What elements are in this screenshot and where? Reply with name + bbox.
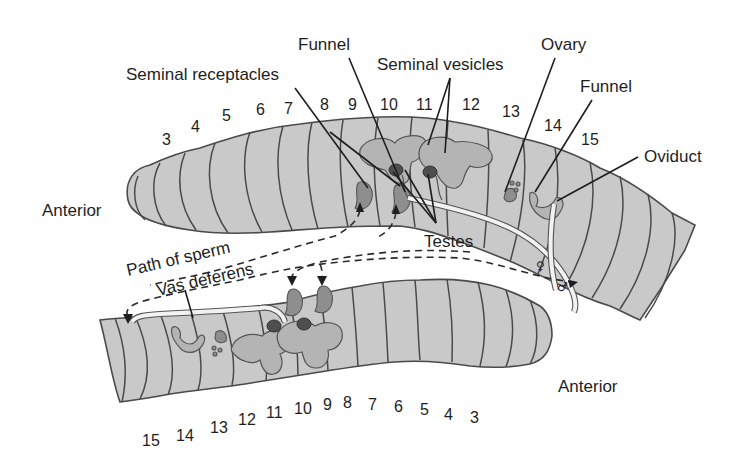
label-funnel-male: Funnel bbox=[298, 35, 350, 54]
segment-number: 6 bbox=[394, 398, 403, 415]
testis-shape bbox=[423, 166, 437, 178]
segment-number: 11 bbox=[266, 404, 283, 421]
segment-number: 7 bbox=[368, 396, 377, 413]
segment-number: 11 bbox=[416, 96, 433, 113]
segment-number: 7 bbox=[284, 100, 293, 117]
seminal-receptacle-shape bbox=[315, 286, 332, 313]
segment-number: 15 bbox=[581, 131, 599, 148]
segment-number: 3 bbox=[470, 409, 479, 426]
label-anterior-lower: Anterior bbox=[558, 377, 618, 396]
label-anterior-upper: Anterior bbox=[42, 201, 102, 220]
female-symbol: ♀ bbox=[536, 259, 545, 273]
segment-number: 8 bbox=[343, 394, 352, 411]
segment-number: 10 bbox=[380, 96, 398, 113]
segment-number: 9 bbox=[323, 396, 332, 413]
segment-number: 12 bbox=[462, 96, 480, 113]
earthworm-mating-diagram: Funnel Seminal receptacles Seminal vesic… bbox=[0, 0, 749, 474]
segment-number: 5 bbox=[420, 401, 429, 418]
segment-number: 14 bbox=[544, 117, 562, 134]
segment-number: 8 bbox=[320, 96, 329, 113]
label-seminal-receptacles: Seminal receptacles bbox=[126, 65, 279, 84]
segment-number: 10 bbox=[294, 400, 312, 417]
testis-shape bbox=[267, 320, 281, 332]
segment-number: 3 bbox=[162, 131, 171, 148]
segment-number: 14 bbox=[176, 427, 194, 444]
label-ovary: Ovary bbox=[541, 35, 587, 54]
segment-number: 5 bbox=[222, 107, 231, 124]
segment-number: 13 bbox=[210, 419, 228, 436]
label-seminal-vesicles: Seminal vesicles bbox=[377, 55, 504, 74]
segment-number: 9 bbox=[348, 96, 357, 113]
male-symbol: ♂ bbox=[557, 280, 568, 294]
segment-number: 4 bbox=[444, 406, 453, 423]
testis-shape bbox=[297, 318, 311, 330]
label-oviduct: Oviduct bbox=[644, 147, 702, 166]
label-funnel-female: Funnel bbox=[580, 77, 632, 96]
segment-number: 12 bbox=[238, 411, 256, 428]
ovary-shape bbox=[215, 331, 226, 343]
segment-number: 6 bbox=[256, 101, 265, 118]
label-testes: Testes bbox=[424, 232, 473, 251]
segment-number: 13 bbox=[502, 103, 520, 120]
segment-number: 15 bbox=[142, 432, 160, 449]
lower-segment-numbers: 15 14 13 12 11 10 9 8 7 6 5 4 3 bbox=[142, 394, 479, 449]
segment-number: 4 bbox=[191, 118, 200, 135]
seminal-receptacle-shape bbox=[285, 289, 302, 316]
